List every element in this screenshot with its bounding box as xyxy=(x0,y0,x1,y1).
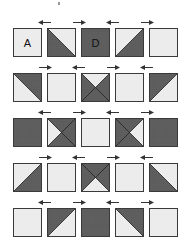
arrow-left-icon xyxy=(140,65,154,70)
arrow-right-icon xyxy=(140,20,154,25)
arrow-left-icon xyxy=(72,155,86,160)
arrow-right-icon xyxy=(140,110,154,115)
quilt-block-r3-c5 xyxy=(149,118,178,147)
top-edge-mark xyxy=(58,2,60,5)
arrow-left-icon xyxy=(140,155,154,160)
quilt-block-r1-c5 xyxy=(149,28,178,57)
quilt-block-r4-c2 xyxy=(47,163,76,192)
quilt-block-r1-c1: A xyxy=(13,28,42,57)
quilt-block-r5-c3 xyxy=(81,208,110,237)
block-label: D xyxy=(82,29,109,56)
quilt-block-r5-c4 xyxy=(115,208,144,237)
block-label: A xyxy=(14,29,41,56)
arrow-left-icon xyxy=(38,110,52,115)
quilt-block-r4-c3 xyxy=(81,163,110,192)
arrow-right-icon xyxy=(140,200,154,205)
quilt-block-r5-c2 xyxy=(47,208,76,237)
quilt-block-r2-c1 xyxy=(13,73,42,102)
quilt-block-r4-c1 xyxy=(13,163,42,192)
quilt-block-r2-c2 xyxy=(47,73,76,102)
arrow-right-icon xyxy=(106,155,120,160)
quilt-block-r3-c4 xyxy=(115,118,144,147)
quilt-block-r1-c4 xyxy=(115,28,144,57)
quilt-block-r3-c2 xyxy=(47,118,76,147)
arrow-right-icon xyxy=(72,110,86,115)
arrow-left-icon xyxy=(106,110,120,115)
arrow-left-icon xyxy=(72,65,86,70)
arrow-left-icon xyxy=(106,20,120,25)
arrow-left-icon xyxy=(106,200,120,205)
quilt-block-r2-c4 xyxy=(115,73,144,102)
quilt-block-r1-c2 xyxy=(47,28,76,57)
arrow-right-icon xyxy=(38,65,52,70)
quilt-block-r4-c4 xyxy=(115,163,144,192)
quilt-block-r5-c1 xyxy=(13,208,42,237)
arrow-left-icon xyxy=(38,200,52,205)
arrow-right-icon xyxy=(106,65,120,70)
quilt-block-r2-c3 xyxy=(81,73,110,102)
quilt-block-r4-c5 xyxy=(149,163,178,192)
quilt-block-r5-c5 xyxy=(149,208,178,237)
quilt-block-r2-c5 xyxy=(149,73,178,102)
arrow-right-icon xyxy=(72,20,86,25)
arrow-right-icon xyxy=(72,200,86,205)
quilt-block-r1-c3: D xyxy=(81,28,110,57)
quilt-block-r3-c1 xyxy=(13,118,42,147)
arrow-left-icon xyxy=(38,20,52,25)
arrow-right-icon xyxy=(38,155,52,160)
quilt-block-r3-c3 xyxy=(81,118,110,147)
